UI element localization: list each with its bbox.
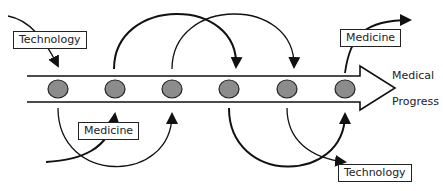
stage-node [48, 80, 68, 98]
technology-outgoing-arrow [287, 108, 345, 162]
stage-node [162, 80, 182, 98]
stage-node [335, 80, 355, 98]
medicine-label-top-right: Medicine [340, 29, 401, 47]
medical-progress-label-line1: Medical [392, 69, 434, 82]
medical-progress-label-line2: Progress [392, 95, 439, 108]
stage-node [277, 80, 297, 98]
medicine-label-bottom-left: Medicine [78, 122, 139, 140]
upper-arc-1-arrow [114, 14, 236, 69]
stage-node [219, 80, 239, 98]
technology-label-top-left: Technology [13, 31, 87, 49]
stage-node [105, 80, 125, 98]
upper-arc-2-arrow [172, 14, 294, 69]
medical-progress-diagram: Technology Medicine Medicine Technology … [0, 0, 443, 191]
technology-label-bottom-right: Technology [338, 164, 412, 182]
